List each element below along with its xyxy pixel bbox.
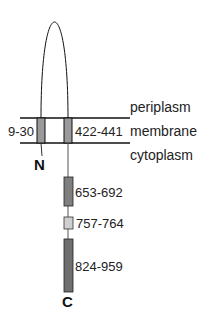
domain-757-764: [64, 217, 73, 229]
label-membrane: membrane: [130, 123, 197, 139]
label-periplasm: periplasm: [130, 99, 191, 115]
label-tm-2: 422-441: [75, 124, 123, 139]
tm-segment-2: [64, 118, 72, 143]
label-cytoplasm: cytoplasm: [130, 147, 193, 163]
domain-653-692: [64, 177, 73, 206]
periplasmic-loop: [41, 22, 68, 118]
label-domain-1: 653-692: [75, 185, 123, 200]
topology-diagram: periplasm membrane cytoplasm 9-30 422-44…: [0, 0, 210, 324]
tm-segment-1: [37, 118, 45, 143]
label-domain-2: 757-764: [76, 216, 124, 231]
n-terminal-tail: [41, 143, 42, 156]
label-domain-3: 824-959: [75, 259, 123, 274]
n-terminus-label: N: [34, 156, 45, 173]
domain-824-959: [64, 239, 73, 292]
label-tm-1: 9-30: [8, 124, 34, 139]
c-terminus-label: C: [62, 293, 73, 310]
